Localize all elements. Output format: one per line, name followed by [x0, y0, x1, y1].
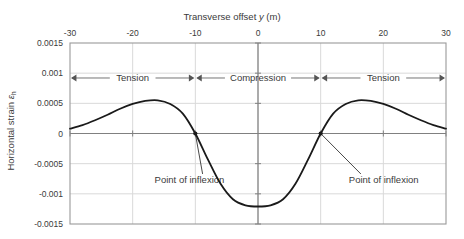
span-annotation-label: Compression [230, 72, 286, 83]
x-tick-label: -30 [64, 28, 77, 38]
y-tick-label: -0.0015 [34, 219, 63, 229]
y-axis-title: Horizontal strain εh [5, 91, 17, 170]
x-tick-label: -20 [127, 28, 140, 38]
span-annotation-label: Tension [116, 72, 149, 83]
y-tick-label: 0.0005 [37, 98, 63, 108]
leader-annotation-label: Point of inflexion [155, 174, 225, 185]
span-annotation-label: Tension [367, 72, 400, 83]
x-tick-label: 20 [379, 28, 389, 38]
x-tick-label: 10 [316, 28, 326, 38]
x-tick-label: 0 [256, 28, 261, 38]
y-tick-label: -0.0005 [34, 159, 63, 169]
x-tick-label: 30 [441, 28, 451, 38]
inflexion-point-marker [193, 131, 197, 135]
horizontal-strain-chart: Transverse offset y (m) Horizontal strai… [0, 0, 464, 239]
y-tick-label: -0.001 [39, 189, 63, 199]
y-tick-label: 0 [58, 129, 63, 139]
x-axis-title: Transverse offset y (m) [183, 11, 280, 22]
leader-annotation-label: Point of inflexion [349, 174, 419, 185]
y-tick-label: 0.0015 [37, 38, 63, 48]
chart-container: Transverse offset y (m) Horizontal strai… [0, 0, 464, 239]
inflexion-point-marker [319, 131, 323, 135]
y-tick-label: 0.001 [42, 68, 64, 78]
x-tick-label: -10 [189, 28, 202, 38]
